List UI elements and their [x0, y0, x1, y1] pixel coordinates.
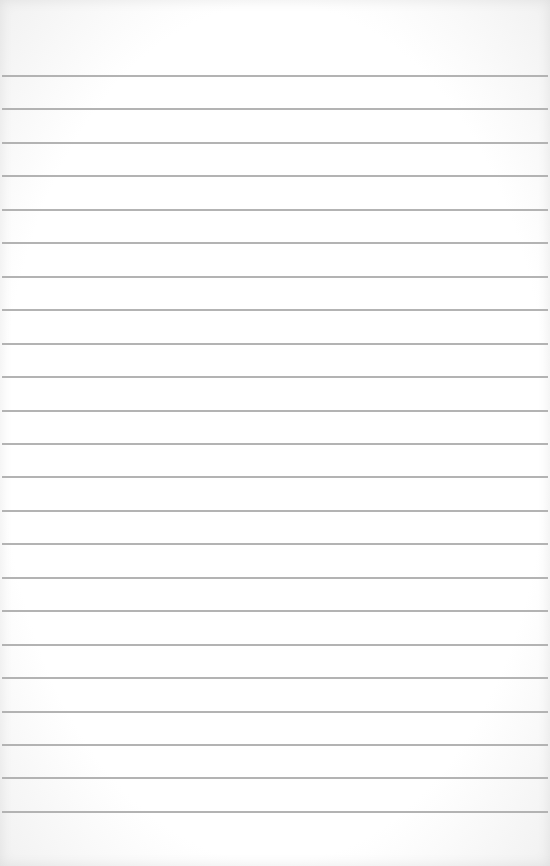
ruled-line — [2, 75, 548, 77]
ruled-line — [2, 209, 548, 211]
ruled-line — [2, 677, 548, 679]
ruled-line — [2, 443, 548, 445]
ruled-line — [2, 610, 548, 612]
ruled-line — [2, 410, 548, 412]
ruled-line — [2, 543, 548, 545]
ruled-line — [2, 142, 548, 144]
ruled-line — [2, 476, 548, 478]
ruled-line — [2, 744, 548, 746]
ruled-line — [2, 811, 548, 813]
ruled-line — [2, 242, 548, 244]
ruled-line — [2, 644, 548, 646]
ruled-line — [2, 343, 548, 345]
ruled-line — [2, 309, 548, 311]
ruled-line — [2, 777, 548, 779]
ruled-line — [2, 711, 548, 713]
ruled-line — [2, 175, 548, 177]
ruled-line — [2, 108, 548, 110]
lined-paper-sheet — [0, 0, 550, 866]
ruled-line — [2, 577, 548, 579]
ruled-line — [2, 510, 548, 512]
ruled-line — [2, 376, 548, 378]
ruled-line — [2, 276, 548, 278]
